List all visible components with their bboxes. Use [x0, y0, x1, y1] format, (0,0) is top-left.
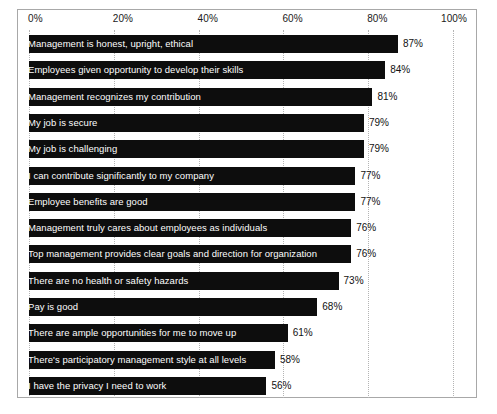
bar-value-label: 61% — [293, 324, 313, 342]
bar: I have the privacy I need to work — [29, 377, 266, 395]
bar-category-label: Management recognizes my contribution — [29, 88, 201, 106]
bar: My job is challenging — [29, 140, 364, 158]
bar-value-label: 77% — [360, 193, 380, 211]
bar: Employee benefits are good — [29, 193, 355, 211]
x-axis-tick-label: 100% — [441, 13, 467, 24]
bar-category-label: There are no health or safety hazards — [29, 272, 188, 290]
bar-value-label: 76% — [356, 245, 376, 263]
bar: There's participatory management style a… — [29, 351, 275, 369]
bar-category-label: There's participatory management style a… — [29, 351, 246, 369]
bar: Management is honest, upright, ethical — [29, 35, 398, 53]
x-axis-tick-label: 0% — [28, 13, 43, 24]
bar-value-label: 56% — [271, 377, 291, 395]
bar: I can contribute significantly to my com… — [29, 167, 355, 185]
bar-category-label: I have the privacy I need to work — [29, 377, 166, 395]
bar-category-label: I can contribute significantly to my com… — [29, 167, 214, 185]
x-axis-tick-label: 40% — [198, 13, 218, 24]
bar-value-label: 68% — [322, 298, 342, 316]
bar-row: Management truly cares about employees a… — [18, 219, 476, 237]
chart-page: 0%20%40%60%80%100% Management is honest,… — [0, 0, 497, 414]
chart-frame: 0%20%40%60%80%100% Management is honest,… — [17, 9, 477, 398]
x-axis-tick-label: 20% — [113, 13, 133, 24]
bar-value-label: 81% — [377, 88, 397, 106]
x-axis-tick-label: 60% — [282, 13, 302, 24]
bar: There are no health or safety hazards — [29, 272, 339, 290]
bar-row: There are ample opportunities for me to … — [18, 324, 476, 342]
bar-row: Employee benefits are good77% — [18, 193, 476, 211]
x-axis: 0%20%40%60%80%100% — [18, 10, 476, 30]
bar-row: Management recognizes my contribution81% — [18, 88, 476, 106]
bar-row: I have the privacy I need to work56% — [18, 377, 476, 395]
bar: Employees given opportunity to develop t… — [29, 61, 385, 79]
bar-category-label: Employee benefits are good — [29, 193, 148, 211]
bar-category-label: Management truly cares about employees a… — [29, 219, 267, 237]
bar-row: My job is secure79% — [18, 114, 476, 132]
bar-category-label: My job is secure — [29, 114, 97, 132]
bar-category-label: Management is honest, upright, ethical — [29, 35, 193, 53]
bar: Top management provides clear goals and … — [29, 245, 351, 263]
bar: Management truly cares about employees a… — [29, 219, 351, 237]
bar-value-label: 76% — [356, 219, 376, 237]
bar-category-label: My job is challenging — [29, 140, 117, 158]
bar-row: Pay is good68% — [18, 298, 476, 316]
bar: There are ample opportunities for me to … — [29, 324, 288, 342]
bar-row: There are no health or safety hazards73% — [18, 272, 476, 290]
bar: Pay is good — [29, 298, 317, 316]
bar-row: There's participatory management style a… — [18, 351, 476, 369]
bar-value-label: 87% — [403, 35, 423, 53]
bar-category-label: Pay is good — [29, 298, 78, 316]
bars-area: Management is honest, upright, ethical87… — [18, 30, 476, 398]
bar-category-label: Top management provides clear goals and … — [29, 245, 317, 263]
bar-row: Top management provides clear goals and … — [18, 245, 476, 263]
bar-row: Employees given opportunity to develop t… — [18, 61, 476, 79]
bar-row: My job is challenging79% — [18, 140, 476, 158]
bar: My job is secure — [29, 114, 364, 132]
bar: Management recognizes my contribution — [29, 88, 372, 106]
x-axis-tick-label: 80% — [367, 13, 387, 24]
bar-row: I can contribute significantly to my com… — [18, 167, 476, 185]
bar-value-label: 58% — [280, 351, 300, 369]
bar-value-label: 79% — [369, 114, 389, 132]
bar-row: Management is honest, upright, ethical87… — [18, 35, 476, 53]
bar-value-label: 73% — [344, 272, 364, 290]
bar-category-label: Employees given opportunity to develop t… — [29, 61, 243, 79]
bar-value-label: 79% — [369, 140, 389, 158]
bar-category-label: There are ample opportunities for me to … — [29, 324, 236, 342]
bar-value-label: 84% — [390, 61, 410, 79]
bar-value-label: 77% — [360, 167, 380, 185]
